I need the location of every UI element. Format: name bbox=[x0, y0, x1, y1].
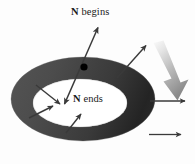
label-n-begins: N begins bbox=[71, 7, 109, 18]
label-n-ends-symbol: N bbox=[73, 93, 81, 104]
label-n-begins-symbol: N bbox=[71, 6, 79, 17]
base-point-dot bbox=[80, 63, 87, 70]
label-n-ends: N ends bbox=[73, 94, 103, 105]
label-n-begins-text: begins bbox=[79, 6, 110, 17]
surface-normal-diagram: N begins N ends bbox=[0, 0, 195, 164]
label-n-ends-text: ends bbox=[81, 93, 103, 104]
diagram-canvas bbox=[0, 0, 195, 164]
